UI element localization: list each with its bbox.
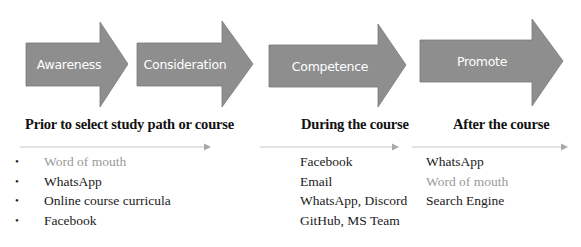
phase-heading-during: During the course (301, 116, 409, 133)
stage-label-competence: Competence (292, 59, 368, 74)
separator-arrow-prior (20, 144, 211, 151)
separator-arrow-during (260, 144, 399, 151)
list-item: • Online course curricula (15, 191, 171, 211)
stage-label-consideration: Consideration (144, 57, 227, 72)
list-item-text: Word of mouth (426, 174, 508, 189)
channel-list-after: WhatsApp Word of mouth Search Engine (426, 152, 508, 211)
stage-label-awareness: Awareness (37, 57, 101, 72)
list-item: • Facebook (15, 211, 171, 231)
list-item-text: WhatsApp (44, 174, 102, 189)
separator-arrow-after (412, 144, 568, 151)
list-item-text: GitHub, MS Team (300, 213, 400, 228)
list-item: • Word of mouth (15, 152, 171, 172)
list-item-text: Word of mouth (44, 154, 126, 169)
list-item-text: WhatsApp (426, 154, 484, 169)
list-item-text: Online course curricula (44, 193, 171, 208)
list-item-text: Facebook (44, 213, 96, 228)
list-item: WhatsApp (426, 152, 508, 172)
list-item: Facebook (300, 152, 407, 172)
bullet-icon: • (15, 172, 19, 192)
phase-heading-prior: Prior to select study path or course (25, 116, 234, 133)
list-item-text: Email (300, 174, 332, 189)
phase-heading-after: After the course (453, 116, 549, 133)
list-item: Search Engine (426, 191, 508, 211)
list-item: Email (300, 172, 407, 192)
channel-list-during: Facebook Email WhatsApp, Discord GitHub,… (300, 152, 407, 230)
stage-label-promote: Promote (457, 54, 507, 69)
list-item: • WhatsApp (15, 172, 171, 192)
bullet-icon: • (15, 211, 19, 231)
channel-list-prior: • Word of mouth • WhatsApp • Online cour… (15, 152, 171, 230)
list-item: GitHub, MS Team (300, 211, 407, 231)
list-item-text: Search Engine (426, 193, 504, 208)
list-item: WhatsApp, Discord (300, 191, 407, 211)
bullet-icon: • (15, 152, 19, 172)
list-item: Word of mouth (426, 172, 508, 192)
list-item-text: Facebook (300, 154, 352, 169)
list-item-text: WhatsApp, Discord (300, 193, 407, 208)
bullet-icon: • (15, 191, 19, 211)
